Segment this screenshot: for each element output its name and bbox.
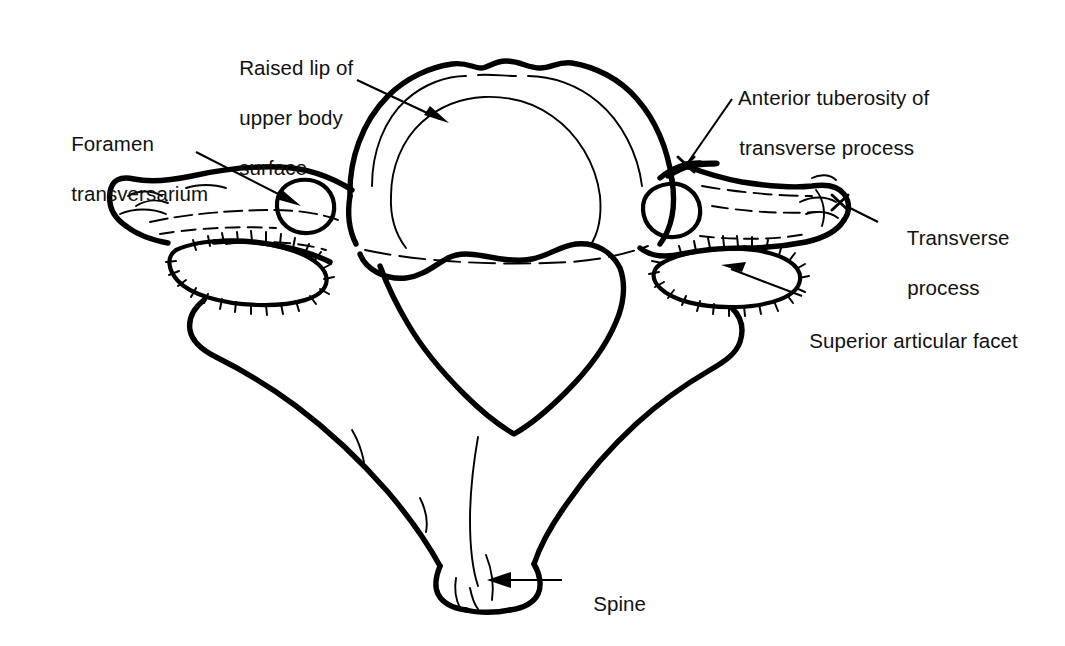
left-superior-articular-facet	[166, 231, 334, 315]
spinous-process	[436, 437, 540, 612]
leader-spine	[487, 572, 562, 588]
right-lamina	[534, 308, 742, 564]
left-lamina	[190, 300, 440, 566]
label-line: Transverse	[907, 226, 1010, 249]
label-raised-lip-of-upper-body-surface: Raised lip of upper body surface	[216, 30, 353, 205]
vertebral-body	[349, 61, 674, 264]
label-line: Raised lip of	[239, 56, 353, 79]
label-line: transversarium	[71, 182, 208, 205]
label-line: process	[907, 276, 979, 299]
label-line: transverse process	[739, 136, 914, 159]
label-spine: Spine	[570, 566, 646, 641]
vertebral-foramen	[360, 244, 623, 434]
label-line: Foramen	[71, 132, 154, 155]
label-line: Spine	[593, 592, 646, 615]
anatomical-figure: Raised lip of upper body surface Foramen…	[0, 0, 1065, 646]
label-line: Anterior tuberosity of	[738, 86, 929, 109]
label-line: surface	[239, 156, 307, 179]
label-line: upper body	[239, 106, 343, 129]
label-superior-articular-facet: Superior articular facet	[786, 303, 1018, 378]
label-line: Superior articular facet	[809, 329, 1018, 352]
leader-superior-articular-facet	[721, 262, 802, 296]
label-anterior-tuberosity-of-transverse-process: Anterior tuberosity of transverse proces…	[716, 60, 929, 185]
label-foramen-transversarium: Foramen transversarium	[48, 106, 208, 231]
